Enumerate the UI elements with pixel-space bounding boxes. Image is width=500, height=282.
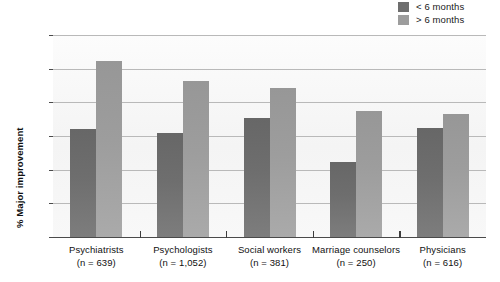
bar-chart-figure: < 6 months> 6 months % Major improvement… [0,0,500,282]
y-axis-title: % Major improvement [14,8,28,228]
category-name: Physicians [419,244,465,255]
legend-item: < 6 months [398,1,464,12]
bar [417,128,443,237]
bar [96,61,122,237]
bar [330,162,356,237]
plot-area [53,35,486,238]
category-name: Psychiatrists [69,244,124,255]
gridline [53,35,486,36]
group-separator-tick [399,231,400,238]
category-name: Social workers [238,244,301,255]
legend-item-label: > 6 months [416,14,464,25]
legend-item-label: < 6 months [416,1,464,12]
gridline [53,136,486,137]
category-name: Psychologists [153,244,212,255]
bar [356,111,382,237]
legend-swatch-icon [398,15,409,25]
gridline [53,69,486,70]
gridline [53,203,486,204]
bar [270,88,296,237]
bar [157,133,183,237]
gridline [53,170,486,171]
gridline [53,102,486,103]
x-axis-labels: Psychiatrists(n = 639)Psychologists(n = … [53,243,486,281]
group-separator-tick [226,231,227,238]
category-sample-size: (n = 616) [391,256,494,269]
x-axis-category-label: Physicians(n = 616) [391,243,494,269]
bar [70,129,96,237]
chart-legend: < 6 months> 6 months [398,1,464,25]
group-separator-tick [140,231,141,238]
legend-swatch-icon [398,2,409,12]
legend-item: > 6 months [398,14,464,25]
bar [443,114,469,237]
category-name: Marriage counselors [312,244,400,255]
group-separator-tick [313,231,314,238]
bar [183,81,209,237]
